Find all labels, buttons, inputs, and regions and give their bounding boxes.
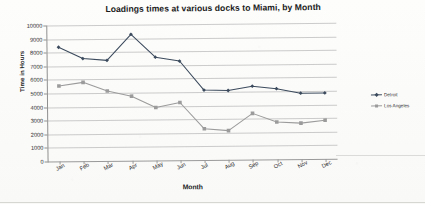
data-point-marker [275, 87, 279, 91]
y-axis-tick-label: 8000 [30, 50, 43, 56]
data-point-marker [178, 101, 182, 105]
data-point-marker [323, 91, 327, 95]
series-line-los-angeles [59, 80, 325, 132]
y-axis-tick-labels: 1000090008000700060005000400030002000100… [0, 2, 44, 204]
data-point-marker [203, 127, 207, 131]
data-point-marker [226, 89, 230, 93]
y-axis-tick-label: 10000 [27, 23, 43, 29]
x-axis-tick-label: Nov [296, 159, 308, 169]
legend-label: Los Angeles [384, 103, 409, 108]
data-point-marker [251, 112, 255, 116]
y-axis-tick-label: 1000 [31, 145, 44, 151]
y-axis-tick-label: 2000 [31, 131, 44, 137]
x-axis-tick-label: Oct [272, 160, 283, 170]
data-point-marker [227, 129, 231, 133]
data-point-marker [57, 45, 61, 49]
chart-title: Loadings times at various docks to Miami… [63, 2, 363, 15]
x-axis-title: Month [48, 182, 338, 192]
x-axis-tick-label: Jul [200, 162, 209, 171]
y-axis-tick-label: 9000 [30, 36, 43, 42]
legend-item-los-angeles[interactable]: Los Angeles [371, 101, 409, 110]
y-axis-tick-label: 4000 [31, 104, 44, 110]
line-chart-figure: Loadings times at various docks to Miami… [0, 0, 425, 204]
data-point-marker [323, 118, 327, 122]
x-axis-tick-label: Dec [321, 159, 333, 169]
legend-swatch-icon [371, 91, 382, 98]
data-point-marker [57, 84, 61, 88]
data-point-marker [81, 57, 85, 61]
x-axis-tick-label: Aug [224, 160, 236, 170]
y-axis-tick-label: 6000 [30, 77, 43, 83]
chart-legend: DetroitLos Angeles [371, 90, 423, 116]
legend-item-detroit[interactable]: Detroit [371, 90, 398, 99]
data-series-layer [46, 23, 337, 162]
data-point-marker [275, 120, 279, 124]
y-axis-title: Time in Hours [18, 41, 26, 101]
data-point-marker [250, 84, 254, 88]
x-axis-tick-label: Jun [176, 161, 187, 171]
x-axis-tick-label: Feb [79, 162, 90, 172]
data-point-marker [130, 94, 134, 98]
data-point-marker [299, 121, 303, 125]
legend-swatch-icon [371, 102, 382, 109]
x-axis-tick-label: Jan [55, 162, 66, 172]
data-point-marker [299, 91, 303, 95]
data-point-marker [154, 106, 158, 110]
y-axis-tick-label: 0 [40, 159, 43, 165]
series-line-detroit [58, 32, 324, 95]
data-point-marker [105, 89, 109, 93]
y-axis-tick-label: 7000 [30, 63, 43, 69]
data-point-marker [81, 81, 85, 85]
x-axis-tick-label: Mar [103, 161, 114, 171]
x-axis-tick-label: Apr [127, 162, 138, 172]
x-axis-tick-label: May [151, 160, 163, 170]
x-axis-tick-label: Sep [248, 160, 260, 170]
legend-label: Detroit [384, 92, 398, 97]
y-axis-tick-label: 3000 [31, 118, 44, 124]
y-axis-tick-label: 5000 [30, 91, 43, 97]
